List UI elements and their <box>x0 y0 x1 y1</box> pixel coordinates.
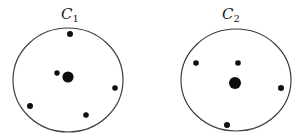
point-dot-small <box>278 85 284 91</box>
point-dot-small <box>54 70 59 75</box>
diagram-canvas: C1C2 <box>0 0 305 137</box>
circle-label-C1: C1 <box>61 5 79 24</box>
circle-label-subscript: 1 <box>73 13 79 24</box>
point-dot-large <box>229 77 241 89</box>
point-dot-small <box>224 122 230 128</box>
circle-label-subscript: 2 <box>234 13 240 24</box>
point-dot-small <box>193 60 199 66</box>
circle-label-letter: C <box>61 5 73 23</box>
point-dot-small <box>27 103 33 109</box>
point-dot-small <box>83 112 89 118</box>
circle-label-letter: C <box>222 5 234 23</box>
point-dot-large <box>62 71 73 82</box>
circle-group-C2: C2 <box>181 5 291 131</box>
point-dot-small <box>67 31 73 37</box>
circle-group-C1: C1 <box>13 5 123 132</box>
point-dot-small <box>112 85 118 91</box>
circle-label-C2: C2 <box>222 5 240 24</box>
point-set-diagram: C1C2 <box>0 0 305 137</box>
point-dot-small <box>235 60 241 66</box>
